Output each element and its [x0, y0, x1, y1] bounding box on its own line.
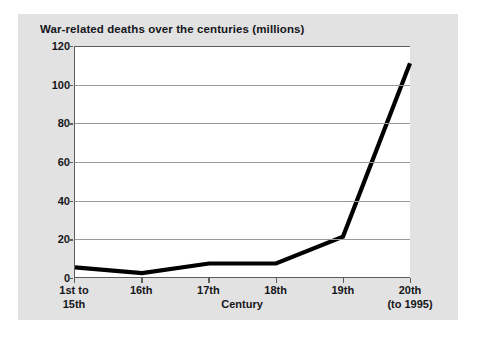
gridline [75, 123, 410, 124]
y-tick-mark [68, 278, 73, 279]
plot-area [74, 46, 410, 278]
x-tick-label-line1: 19th [331, 284, 354, 296]
y-tick-mark [68, 239, 73, 240]
gridline [75, 85, 410, 86]
plot-top-border [75, 46, 410, 47]
x-tick-mark [410, 278, 411, 283]
gridline [75, 239, 410, 240]
x-tick-mark [276, 278, 277, 283]
y-tick-mark [68, 201, 73, 202]
x-tick-label-line1: 17th [197, 284, 220, 296]
x-tick-mark [208, 278, 209, 283]
gridline [75, 201, 410, 202]
x-tick-mark [343, 278, 344, 283]
x-axis-title: Century [74, 298, 410, 310]
y-tick-mark [68, 123, 73, 124]
figure-panel: War-related deaths over the centuries (m… [18, 14, 458, 320]
x-tick-label-line1: 1st to [59, 284, 88, 296]
x-tick-mark [141, 278, 142, 283]
x-tick-mark [74, 278, 75, 283]
x-tick-label-line1: 18th [264, 284, 287, 296]
y-axis-tick-marks [18, 46, 74, 278]
chart-title: War-related deaths over the centuries (m… [40, 23, 304, 35]
y-tick-mark [68, 85, 73, 86]
gridline [75, 162, 410, 163]
y-tick-mark [68, 46, 73, 47]
y-tick-mark [68, 162, 73, 163]
x-tick-label-line1: 20th [399, 284, 422, 296]
x-tick-label-line1: 16th [130, 284, 153, 296]
